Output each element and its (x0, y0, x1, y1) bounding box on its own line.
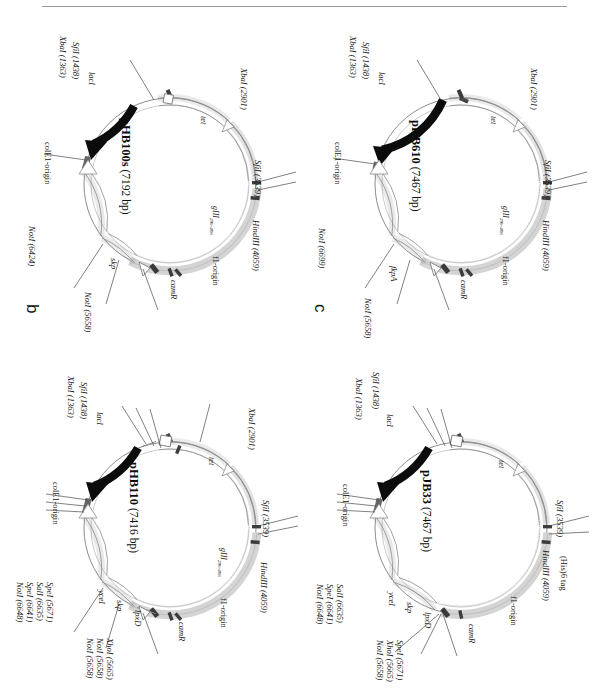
site-label-d-5: SalI (6635) (335, 584, 344, 623)
site-label-d-3: HindIII (4059) (541, 550, 550, 601)
gene-label-colE1-origin-c: colE1-origin (333, 142, 342, 184)
gene-label-skp-a: skp (115, 600, 124, 611)
site-label-d-7: NotI (6648) (315, 584, 324, 624)
site-label-c-3: SfiI (3539) (543, 160, 552, 197)
gene-label-camR-d: camR (467, 624, 476, 643)
site-label-d-10: NotI (5658) (375, 640, 384, 680)
gene-label-lacI-d: lacI (385, 414, 394, 427)
site-label-a-5: SpeI (5671) (45, 582, 54, 622)
site-label-a-0: XbaI (1363) (66, 376, 75, 418)
site-label-b-5: NotI (6424) (27, 226, 36, 266)
gene-label-f1-origin-a: f1-origin (219, 598, 228, 628)
gene-label-tet-c: tet (489, 116, 498, 124)
gene-label-gIII-b: gIII29b-406 (209, 206, 220, 235)
gene-label-gIII-a: gIII29b-406 (217, 548, 228, 577)
panel-d: d (306, 352, 596, 697)
site-label-d-1: SfiI (1438) (371, 372, 380, 409)
gene-label-skp-b: skp (109, 258, 118, 269)
site-label-b-2: XbaI (2901) (239, 68, 248, 110)
gene-label-lpxD-d: lpxD (423, 612, 432, 628)
plasmid-name-c: pHB610 (409, 120, 423, 164)
site-label-b-4: HindIII (4059) (251, 220, 260, 271)
site-label-b-1: SfiI (1438) (71, 42, 80, 79)
panel-b: b (18, 16, 303, 346)
gene-label-lacI-a: lacI (95, 412, 104, 425)
site-label-d-9: XhoI (5665) (385, 640, 394, 682)
plasmid-size-a: (7416 bp) (128, 508, 140, 553)
site-label-b-3: SfiI (3539) (253, 160, 262, 197)
gene-label-colE1-origin-d: colE1-origin (341, 484, 350, 526)
site-label-a-9: XhoI (5665) (105, 638, 114, 680)
site-label-a-3: SfiI (3539) (261, 500, 270, 537)
plasmid-name-a: pHB110 (127, 462, 141, 505)
plasmid-name-d: pJB33 (420, 470, 434, 504)
gene-label-skp-d: skp (405, 602, 414, 613)
site-label-c-4: HindIII (4059) (541, 220, 550, 271)
gene-label-colE1-origin-a: colE1-origin (51, 482, 60, 524)
site-label-c-5: NotI (6699) (317, 228, 326, 268)
site-label-d-4: (His)6 tag (559, 556, 568, 591)
site-label-d-6: SpeI (6641) (325, 584, 334, 624)
gene-label-colE1-origin-b: colE1-origin (43, 142, 52, 184)
site-label-d-0: XbaI (1363) (354, 378, 363, 420)
site-label-a-6: SalI (6635) (35, 582, 44, 621)
site-label-a-4: HindIII (4059) (259, 562, 268, 613)
plasmid-title-b: pHB100s (7192 bp) (118, 118, 133, 215)
site-label-a-10: NotI (5658) (95, 638, 104, 678)
gene-label-camR-a: camR (177, 622, 186, 641)
site-label-c-0: XbaI (1363) (348, 36, 357, 78)
gene-label-lacI-b: lacI (87, 72, 96, 85)
gene-label-lpxD-a: lpxD (133, 610, 142, 626)
plasmid-name-b: pHB100s (119, 118, 133, 167)
site-label-a-8: NotI (6648) (15, 582, 24, 622)
site-label-a-2: XbaI (2901) (247, 408, 256, 450)
site-label-a-1: SfiI (1438) (79, 382, 88, 419)
site-label-a-11: NotI (5658) (85, 638, 94, 678)
gene-label-f1-origin-d: f1-origin (509, 596, 518, 626)
gene-label-yceI-a: yceI (97, 590, 106, 604)
site-label-c-2: XbaI (2901) (529, 68, 538, 110)
site-label-d-2: SfiI (3539) (555, 500, 564, 537)
gene-label-tet-a: tet (207, 457, 216, 465)
plasmid-size-b: (7192 bp) (120, 170, 132, 215)
plasmid-size-c: (7467 bp) (410, 167, 422, 212)
panel-c: c (306, 16, 596, 346)
gene-label-f1-origin-c: f1-origin (501, 256, 510, 286)
gene-label-fkpA-c: fkpA (389, 266, 398, 281)
gene-label-camR-c: camR (459, 280, 468, 299)
site-label-c-6: NotI (5658) (363, 298, 372, 338)
plasmid-title-c: pHB610 (7467 bp) (408, 120, 423, 212)
gene-label-lacI-c: lacI (377, 72, 386, 85)
site-label-d-8: SpeI (5671) (395, 640, 404, 680)
gene-label-f1-origin-b: f1-origin (211, 256, 220, 286)
page-header-rule (42, 6, 567, 7)
plasmid-title-d: pJB33 (7467 bp) (419, 470, 434, 552)
gene-label-tet-d: tet (497, 460, 506, 468)
gene-label-tet-b: tet (199, 116, 208, 124)
site-label-b-0: XbaI (1363) (58, 36, 67, 78)
plasmid-size-d: (7467 bp) (421, 507, 433, 552)
gene-label-camR-b: camR (169, 280, 178, 299)
site-label-a-7: SpeI (6641) (25, 582, 34, 622)
site-label-c-1: SfiI (1438) (361, 42, 370, 79)
gene-label-yceI-d: yceI (387, 592, 396, 606)
site-label-b-6: NotI (5658) (83, 292, 92, 332)
panel-a: a (18, 352, 303, 697)
gene-label-gIII-c: gIII29b-406 (499, 206, 510, 235)
plasmid-title-a: pHB110 (7416 bp) (126, 462, 141, 553)
